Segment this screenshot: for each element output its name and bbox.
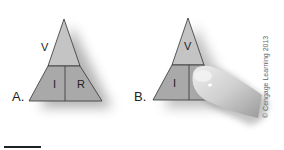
ohms-law-diagram	[0, 0, 284, 150]
panel-a-top-label: V	[41, 41, 48, 53]
panel-b-label: B.	[134, 89, 146, 104]
panel-b-bottom-left-label: I	[173, 77, 176, 89]
panel-b-top-label: V	[184, 40, 191, 52]
panel-a-label: A.	[12, 89, 24, 104]
panel-a-bottom-left-label: I	[53, 78, 56, 90]
scale-rule	[4, 146, 41, 148]
triangle-a	[29, 19, 112, 108]
finger	[193, 66, 269, 125]
copyright-credit: © Cengage Learning 2013	[262, 36, 269, 118]
panel-a-bottom-right-label: R	[77, 78, 85, 90]
